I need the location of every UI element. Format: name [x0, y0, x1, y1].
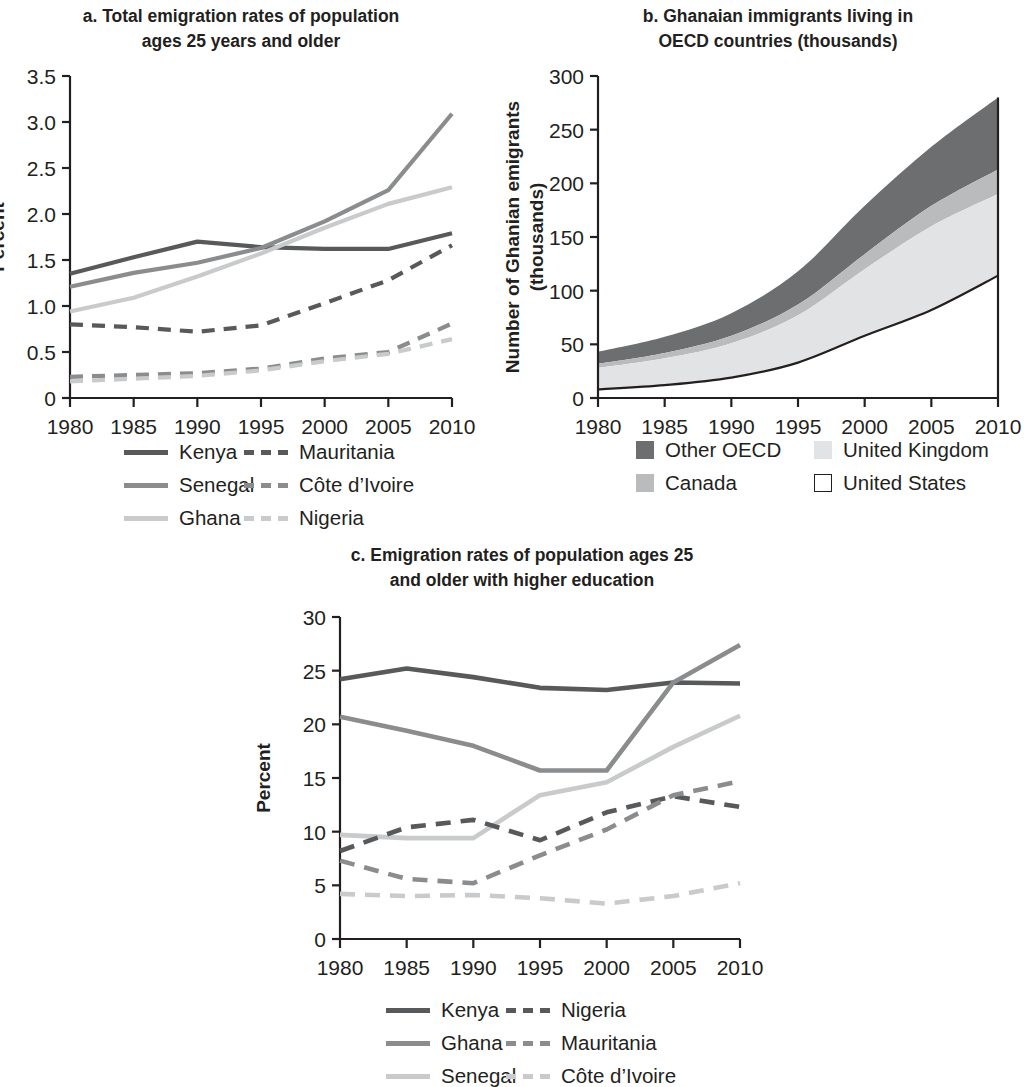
panel-c-legend: Kenya Nigeria Ghana Mauritania Senegal C…: [386, 998, 676, 1087]
x-tick-label: 2005: [908, 415, 955, 438]
x-tick-label: 1990: [708, 415, 755, 438]
panel-c-chart-svg: 0510152025301980198519901995200020052010…: [262, 603, 782, 973]
legend-row: Senegal Côte d’Ivoire: [386, 1064, 676, 1087]
legend-row: Ghana Mauritania: [386, 1031, 676, 1055]
legend-label: Ghana: [441, 1031, 503, 1055]
x-tick-label: 2000: [301, 415, 348, 438]
x-tick-label: 2010: [975, 415, 1022, 438]
x-tick-label: 1985: [110, 415, 157, 438]
legend-label: United States: [843, 471, 966, 495]
legend-item-senegal[interactable]: Senegal: [386, 1064, 506, 1087]
x-tick-label: 1980: [575, 415, 622, 438]
color-swatch-icon: [636, 474, 654, 492]
panel-b: b. Ghanaian immigrants living in OECD co…: [528, 4, 1028, 432]
x-tick-label: 2005: [365, 415, 412, 438]
panel-b-plot: 0501001502002503001980198519901995200020…: [528, 62, 1028, 432]
line-swatch-icon: [124, 483, 168, 488]
dashed-line-swatch-icon: [506, 1041, 550, 1046]
legend-label: Nigeria: [561, 998, 626, 1022]
panel-a-legend: Kenya Mauritania Senegal Côte d’Ivoire G…: [124, 440, 414, 539]
y-tick-label: 0.5: [27, 341, 56, 364]
legend-item-mauritania[interactable]: Mauritania: [506, 1031, 657, 1055]
y-tick-label: 250: [549, 118, 584, 141]
legend-row: Canada United States: [636, 471, 989, 495]
legend-label: Canada: [665, 471, 737, 495]
y-tick-label: 30: [303, 606, 326, 629]
x-tick-label: 1985: [641, 415, 688, 438]
y-tick-label: 5: [314, 874, 326, 897]
series-line-ghana: [340, 645, 740, 771]
y-tick-label: 1.0: [27, 295, 56, 318]
y-tick-label: 25: [303, 659, 326, 682]
dashed-line-swatch-icon: [244, 450, 288, 455]
legend-item-nigeria[interactable]: Nigeria: [244, 506, 364, 530]
panel-a-plot: 00.51.01.52.02.53.03.5198019851990199520…: [6, 62, 476, 432]
line-swatch-icon: [124, 516, 168, 521]
y-tick-label: 2.0: [27, 203, 56, 226]
y-tick-label: 150: [549, 226, 584, 249]
panel-b-title: b. Ghanaian immigrants living in OECD co…: [528, 4, 1028, 54]
x-tick-label: 2000: [841, 415, 888, 438]
panel-a-chart-svg: 00.51.01.52.02.53.03.5198019851990199520…: [6, 62, 476, 432]
y-tick-label: 2.5: [27, 157, 56, 180]
y-axis-label: Percent: [0, 201, 8, 271]
panel-c: c. Emigration rates of population ages 2…: [262, 543, 782, 973]
legend-item-canada[interactable]: Canada: [636, 471, 814, 495]
legend-row: Ghana Nigeria: [124, 506, 414, 530]
legend-item-mauritania[interactable]: Mauritania: [244, 440, 395, 464]
color-swatch-icon: [636, 441, 654, 459]
x-tick-label: 2010: [717, 956, 764, 979]
x-tick-label: 1995: [238, 415, 285, 438]
legend-row: Kenya Mauritania: [124, 440, 414, 464]
x-tick-label: 1980: [47, 415, 94, 438]
y-tick-label: 15: [303, 767, 326, 790]
legend-item-kenya[interactable]: Kenya: [386, 998, 506, 1022]
legend-item-united-kingdom[interactable]: United Kingdom: [814, 438, 989, 462]
legend-row: Kenya Nigeria: [386, 998, 676, 1022]
x-tick-label: 1980: [317, 956, 364, 979]
y-tick-label: 100: [549, 279, 584, 302]
dashed-line-swatch-icon: [244, 516, 288, 521]
y-tick-label: 200: [549, 172, 584, 195]
y-tick-label: 0: [44, 387, 56, 410]
dashed-line-swatch-icon: [506, 1074, 550, 1079]
series-line-senegal: [340, 715, 740, 837]
y-tick-label: 0: [572, 387, 584, 410]
y-tick-label: 1.5: [27, 249, 56, 272]
x-tick-label: 2010: [429, 415, 476, 438]
dashed-line-swatch-icon: [506, 1008, 550, 1013]
panel-b-chart-svg: 0501001502002503001980198519901995200020…: [528, 62, 1028, 432]
legend-item-cote-divoire[interactable]: Côte d’Ivoire: [244, 473, 414, 497]
line-swatch-icon: [386, 1074, 430, 1079]
y-axis-label: Percent: [253, 742, 274, 812]
series-line-nigeria: [340, 796, 740, 851]
x-tick-label: 2000: [583, 956, 630, 979]
legend-label: Kenya: [441, 998, 499, 1022]
series-line-nigeria: [70, 339, 452, 381]
y-tick-label: 10: [303, 820, 326, 843]
y-tick-label: 0: [314, 928, 326, 951]
legend-item-other-oecd[interactable]: Other OECD: [636, 438, 814, 462]
legend-item-cote-divoire[interactable]: Côte d’Ivoire: [506, 1064, 676, 1087]
y-axis-label: Number of Ghanian emigrants(thousands): [502, 101, 547, 373]
legend-row: Other OECD United Kingdom: [636, 438, 989, 462]
legend-label: Senegal: [179, 473, 254, 497]
x-tick-label: 1985: [383, 956, 430, 979]
legend-label: Ghana: [179, 506, 241, 530]
legend-item-ghana[interactable]: Ghana: [124, 506, 244, 530]
line-swatch-icon: [386, 1008, 430, 1013]
legend-item-united-states[interactable]: United States: [814, 471, 966, 495]
legend-item-ghana[interactable]: Ghana: [386, 1031, 506, 1055]
series-line-c-te-d-ivoire: [70, 323, 452, 376]
y-tick-label: 3.5: [27, 65, 56, 88]
legend-label: Nigeria: [299, 506, 364, 530]
panel-a-title: a. Total emigration rates of population …: [6, 4, 476, 54]
legend-label: Mauritania: [561, 1031, 657, 1055]
legend-item-senegal[interactable]: Senegal: [124, 473, 244, 497]
panel-c-plot: 0510152025301980198519901995200020052010…: [262, 603, 782, 973]
legend-item-nigeria[interactable]: Nigeria: [506, 998, 626, 1022]
y-tick-label: 20: [303, 713, 326, 736]
color-swatch-icon: [814, 441, 832, 459]
y-tick-label: 300: [549, 65, 584, 88]
legend-item-kenya[interactable]: Kenya: [124, 440, 244, 464]
